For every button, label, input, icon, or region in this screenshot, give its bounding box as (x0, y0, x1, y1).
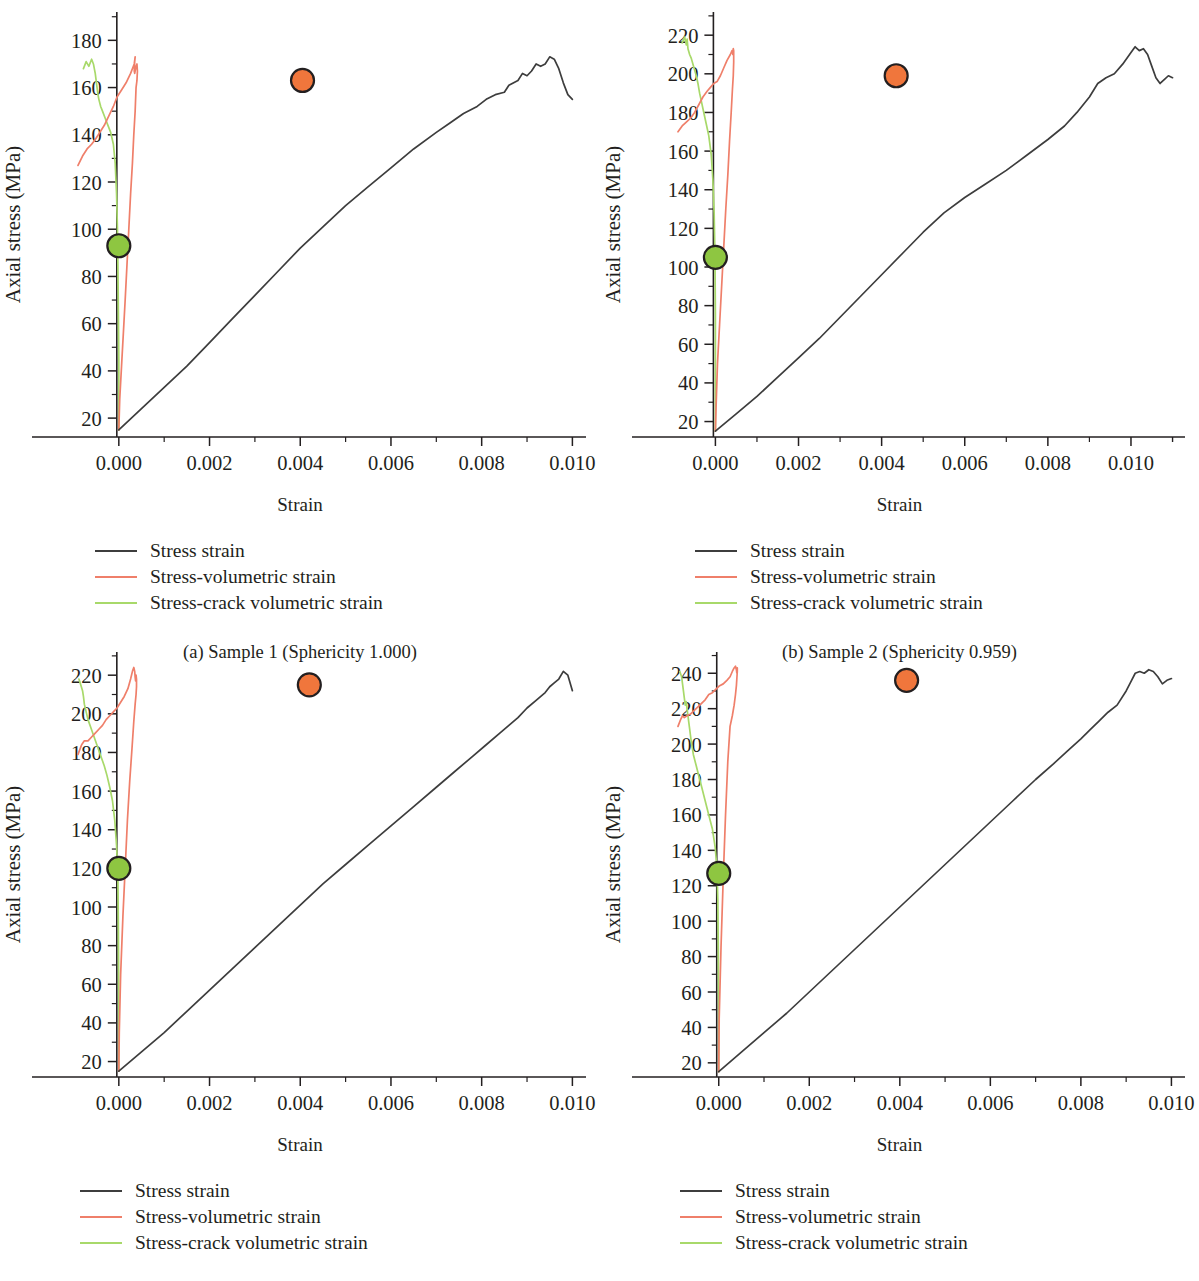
x-tick-label: 0.000 (96, 452, 142, 474)
legend-label: Stress strain (735, 1180, 830, 1202)
chart-svg-c: 0.0000.0020.0040.0060.0080.0102040608010… (0, 640, 600, 1140)
series-line-0 (119, 671, 573, 1071)
legend-swatch-crack-volumetric (680, 1242, 722, 1244)
crack-initiation-point (704, 246, 727, 269)
x-tick-label: 0.008 (1058, 1092, 1104, 1114)
crack-initiation-point (107, 234, 130, 257)
x-tick-label: 0.004 (859, 452, 905, 474)
y-tick-label: 100 (71, 219, 102, 241)
damage-point (298, 673, 321, 696)
chart-svg-d: 0.0000.0020.0040.0060.0080.0102040608010… (600, 640, 1199, 1140)
y-axis-title: Axial stress (MPa) (601, 146, 625, 303)
x-tick-label: 0.010 (1108, 452, 1154, 474)
plot-area-b: 0.0000.0020.0040.0060.0080.0102040608010… (600, 0, 1199, 500)
y-tick-label: 160 (671, 804, 702, 826)
y-tick-label: 80 (81, 935, 102, 957)
legend-item: Stress-volumetric strain (695, 564, 1199, 590)
x-tick-label: 0.008 (1025, 452, 1071, 474)
damage-point (885, 64, 908, 87)
legend-label: Stress-crack volumetric strain (735, 1232, 968, 1254)
legend-item: Stress-volumetric strain (80, 1204, 600, 1230)
y-tick-label: 60 (678, 334, 699, 356)
legend-item: Stress-volumetric strain (680, 1204, 1199, 1230)
x-tick-label: 0.002 (186, 452, 232, 474)
y-tick-label: 80 (681, 946, 702, 968)
x-tick-label: 0.010 (549, 1092, 595, 1114)
y-tick-label: 40 (681, 1017, 702, 1039)
y-tick-label: 60 (81, 313, 102, 335)
x-tick-label: 0.006 (967, 1092, 1013, 1114)
crack-initiation-point (107, 857, 130, 880)
series-line-0 (719, 670, 1172, 1072)
y-tick-label: 140 (668, 179, 699, 201)
panel-c: 0.0000.0020.0040.0060.0080.0102040608010… (0, 640, 600, 1281)
legend-label: Stress-volumetric strain (135, 1206, 321, 1228)
y-tick-label: 120 (668, 218, 699, 240)
y-tick-label: 240 (671, 663, 702, 685)
x-tick-label: 0.002 (186, 1092, 232, 1114)
x-tick-label: 0.010 (1148, 1092, 1194, 1114)
x-tick-label: 0.006 (368, 1092, 414, 1114)
series-line-0 (119, 57, 573, 430)
legend-item: Stress strain (680, 1178, 1199, 1204)
legend-swatch-stress-strain (80, 1190, 122, 1192)
legend-label: Stress-crack volumetric strain (750, 592, 983, 614)
y-tick-label: 140 (71, 819, 102, 841)
y-tick-label: 40 (678, 372, 699, 394)
legend-swatch-stress-strain (95, 550, 137, 552)
panel-b: 0.0000.0020.0040.0060.0080.0102040608010… (600, 0, 1199, 640)
x-tick-label: 0.002 (786, 1092, 832, 1114)
legend-item: Stress-volumetric strain (95, 564, 600, 590)
y-tick-label: 160 (668, 141, 699, 163)
x-tick-label: 0.002 (775, 452, 821, 474)
legend-swatch-crack-volumetric (695, 602, 737, 604)
legend-swatch-crack-volumetric (80, 1242, 122, 1244)
y-tick-label: 220 (71, 665, 102, 687)
legend-label: Stress-crack volumetric strain (135, 1232, 368, 1254)
x-tick-label: 0.004 (277, 452, 323, 474)
legend-item: Stress-crack volumetric strain (680, 1230, 1199, 1256)
y-axis-title: Axial stress (MPa) (1, 786, 25, 943)
figure-grid: 0.0000.0020.0040.0060.0080.0102040608010… (0, 0, 1199, 1281)
y-tick-label: 220 (668, 25, 699, 47)
x-tick-label: 0.006 (368, 452, 414, 474)
legend-c: Stress strain Stress-volumetric strain S… (0, 1178, 600, 1256)
plot-area-c: 0.0000.0020.0040.0060.0080.0102040608010… (0, 640, 600, 1140)
legend-label: Stress strain (135, 1180, 230, 1202)
y-tick-label: 20 (678, 411, 699, 433)
y-tick-label: 100 (671, 911, 702, 933)
legend-swatch-stress-strain (695, 550, 737, 552)
y-tick-label: 60 (81, 974, 102, 996)
crack-initiation-point (707, 862, 730, 885)
x-tick-label: 0.004 (277, 1092, 323, 1114)
legend-swatch-crack-volumetric (95, 602, 137, 604)
y-tick-label: 100 (668, 257, 699, 279)
y-tick-label: 120 (671, 875, 702, 897)
y-tick-label: 80 (678, 295, 699, 317)
panel-d: 0.0000.0020.0040.0060.0080.0102040608010… (600, 640, 1199, 1281)
legend-label: Stress strain (750, 540, 845, 562)
x-tick-label: 0.000 (692, 452, 738, 474)
y-tick-label: 20 (81, 1051, 102, 1073)
legend-swatch-volumetric (80, 1216, 122, 1218)
damage-point (895, 669, 918, 692)
legend-a: Stress strain Stress-volumetric strain S… (0, 538, 600, 616)
legend-d: Stress strain Stress-volumetric strain S… (600, 1178, 1199, 1256)
x-tick-label: 0.006 (942, 452, 988, 474)
legend-swatch-volumetric (695, 576, 737, 578)
legend-swatch-stress-strain (680, 1190, 722, 1192)
y-tick-label: 160 (71, 781, 102, 803)
chart-svg-b: 0.0000.0020.0040.0060.0080.0102040608010… (600, 0, 1199, 500)
plot-area-a: 0.0000.0020.0040.0060.0080.0102040608010… (0, 0, 600, 500)
y-axis-title: Axial stress (MPa) (601, 786, 625, 943)
plot-area-d: 0.0000.0020.0040.0060.0080.0102040608010… (600, 640, 1199, 1140)
legend-label: Stress strain (150, 540, 245, 562)
legend-swatch-volumetric (680, 1216, 722, 1218)
y-tick-label: 140 (671, 840, 702, 862)
x-tick-label: 0.000 (696, 1092, 742, 1114)
legend-b: Stress strain Stress-volumetric strain S… (600, 538, 1199, 616)
x-tick-label: 0.004 (877, 1092, 923, 1114)
legend-swatch-volumetric (95, 576, 137, 578)
legend-label: Stress-crack volumetric strain (150, 592, 383, 614)
damage-point (291, 69, 314, 92)
